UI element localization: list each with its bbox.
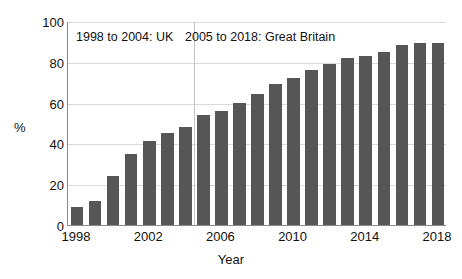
x-axis-tick-labels: 199820022006201020142018: [0, 229, 462, 247]
bar: [161, 133, 174, 225]
x-tick-label: 2010: [278, 229, 307, 244]
bar: [378, 52, 391, 225]
bar: [71, 207, 84, 225]
bar: [305, 70, 318, 225]
annotation-uk-period: 1998 to 2004: UK: [76, 30, 173, 44]
bar: [414, 43, 427, 225]
bar: [215, 111, 228, 225]
bar: [107, 176, 120, 225]
bar: [287, 78, 300, 225]
bar: [89, 201, 102, 225]
gridline: [68, 22, 446, 23]
x-tick-label: 2006: [206, 229, 235, 244]
period-divider-line: [194, 22, 195, 225]
x-tick-label: 2018: [423, 229, 452, 244]
y-tick-label: 80: [24, 55, 64, 70]
bar: [432, 43, 445, 225]
x-tick-label: 2002: [134, 229, 163, 244]
y-tick-label: 40: [24, 137, 64, 152]
plot-area: [67, 22, 446, 226]
bar: [143, 141, 156, 225]
bar: [125, 154, 138, 225]
bar: [233, 103, 246, 225]
x-tick-label: 1998: [62, 229, 91, 244]
bar-chart: % 020406080100 1998 to 2004: UK 2005 to …: [0, 0, 462, 279]
x-tick-label: 2014: [350, 229, 379, 244]
bar: [359, 56, 372, 225]
bar: [396, 45, 409, 225]
bar: [323, 64, 336, 225]
bar: [341, 58, 354, 225]
annotation-gb-period: 2005 to 2018: Great Britain: [185, 30, 335, 44]
bar: [179, 127, 192, 225]
bar: [197, 115, 210, 225]
x-axis-title: Year: [0, 252, 462, 267]
y-tick-label: 60: [24, 96, 64, 111]
y-tick-label: 20: [24, 178, 64, 193]
y-tick-label: 100: [24, 15, 64, 30]
bar: [269, 84, 282, 225]
bar: [251, 94, 264, 225]
